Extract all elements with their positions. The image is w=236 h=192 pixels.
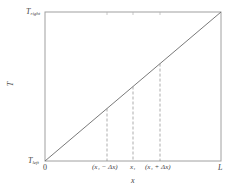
linear-temperature-diagram: Tright Tleft T 0 (x₁ − Δx) x₁ (x₁ + Δx) …	[0, 0, 236, 192]
t-left-label: Tleft	[28, 157, 39, 165]
x-tick-x1: x₁	[130, 164, 136, 171]
x-tick-zero: 0	[43, 164, 47, 172]
t-right-sub: right	[30, 11, 40, 16]
t-right-label: Tright	[26, 8, 40, 16]
x-tick-x1-minus-dx: (x₁ − Δx)	[92, 164, 118, 171]
x-tick-x1-plus-dx: (x₁ + Δx)	[145, 164, 171, 171]
x-axis-label: x	[131, 177, 135, 185]
x-tick-L: L	[218, 164, 222, 172]
y-axis-label: T	[7, 82, 15, 86]
t-left-sub: left	[32, 160, 38, 165]
